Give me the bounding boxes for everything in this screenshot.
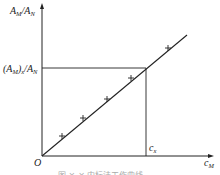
marker-plus-icon [104, 96, 110, 102]
y-axis-label: AM/AN [9, 5, 35, 17]
x-axis-label: cM [204, 157, 214, 169]
cx-label: cx [149, 142, 156, 154]
origin-label: O [34, 157, 41, 168]
reference-y-label: (AM)x/AN [3, 63, 38, 75]
x-axis-arrow-icon [208, 154, 214, 158]
marker-plus-icon [165, 45, 171, 51]
data-markers [59, 45, 171, 139]
figure-caption: 图 ×-× 内标法工作曲线 [58, 170, 143, 175]
calibration-line [42, 35, 187, 156]
chart-svg: AM/AN (AM)x/AN O cx cM 图 ×-× 内标法工作曲线 [0, 0, 220, 175]
y-axis-arrow-icon [40, 3, 44, 9]
